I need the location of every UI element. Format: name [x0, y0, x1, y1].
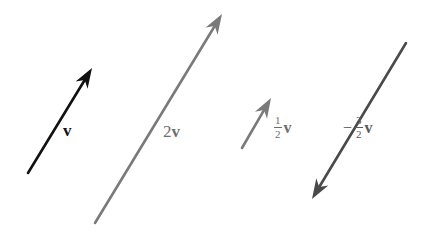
arrow-shaft: [95, 26, 215, 223]
vector-arrow-half-v: [242, 98, 271, 148]
label-v: v: [63, 122, 72, 139]
arrowhead-icon: [76, 68, 92, 89]
fraction-three-halves: 3 2: [355, 115, 363, 140]
label-2v-coef: 2: [163, 122, 172, 141]
vector-arrow-v: [28, 68, 92, 173]
vector-scaling-diagram: v 2v 1 2 v − 3 2 v: [0, 0, 429, 236]
arrowhead-icon: [312, 178, 328, 199]
label-2v: 2v: [163, 123, 180, 140]
arrow-shaft: [28, 80, 85, 173]
label-neg-three-halves-v: − 3 2 v: [343, 115, 373, 140]
fraction-numerator: 3: [355, 115, 363, 128]
fraction-denominator: 2: [275, 128, 281, 140]
fraction-denominator: 2: [356, 128, 362, 140]
label-half-v: 1 2 v: [274, 115, 292, 140]
minus-sign: −: [343, 120, 352, 136]
label-2v-var: v: [172, 122, 181, 141]
fraction-one-half: 1 2: [274, 115, 282, 140]
label-v-var: v: [63, 121, 72, 140]
label-neg-three-halves-v-var: v: [365, 120, 373, 136]
fraction-numerator: 1: [274, 115, 282, 128]
arrow-shaft: [242, 110, 264, 148]
arrowhead-icon: [255, 98, 271, 119]
arrowhead-icon: [206, 14, 222, 35]
vector-arrow-2v: [95, 14, 222, 223]
label-half-v-var: v: [284, 120, 292, 136]
